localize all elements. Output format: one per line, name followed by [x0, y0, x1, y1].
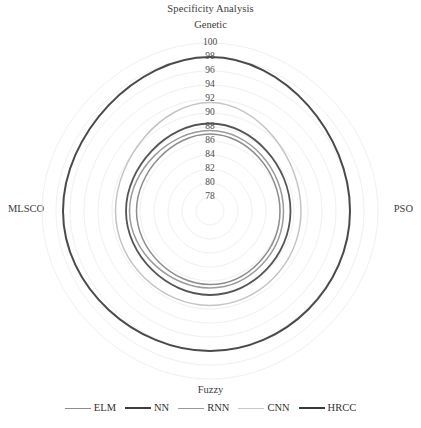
legend-swatch-hrcc — [299, 407, 325, 409]
legend-swatch-elm — [65, 408, 91, 409]
legend-swatch-rnn — [178, 408, 204, 409]
gridline-ring-86 — [140, 141, 280, 281]
gridline-ring-92 — [98, 99, 322, 323]
radial-tick-90: 90 — [193, 107, 227, 117]
legend-item-hrcc[interactable]: HRCC — [299, 403, 357, 414]
radial-tick-98: 98 — [193, 51, 227, 61]
legend-item-rnn[interactable]: RNN — [178, 403, 229, 414]
legend-label: ELM — [94, 403, 116, 414]
radial-tick-86: 86 — [193, 135, 227, 145]
legend-label: NN — [154, 403, 169, 414]
radial-tick-78: 78 — [193, 191, 227, 201]
radial-tick-100: 100 — [193, 37, 227, 47]
legend-item-elm[interactable]: ELM — [65, 403, 116, 414]
legend-item-cnn[interactable]: CNN — [238, 403, 289, 414]
legend-label: CNN — [267, 403, 289, 414]
radial-tick-96: 96 — [193, 65, 227, 75]
radial-tick-88: 88 — [193, 121, 227, 131]
radial-tick-82: 82 — [193, 163, 227, 173]
radial-tick-80: 80 — [193, 177, 227, 187]
radial-tick-92: 92 — [193, 93, 227, 103]
series-line-cnn — [116, 103, 302, 306]
radial-tick-84: 84 — [193, 149, 227, 159]
legend-swatch-cnn — [238, 408, 264, 409]
legend-swatch-nn — [125, 407, 151, 409]
legend-item-nn[interactable]: NN — [125, 403, 169, 414]
radar-chart-figure: Specificity Analysis Genetic PSO Fuzzy M… — [0, 0, 421, 428]
legend-label: HRCC — [328, 403, 357, 414]
radial-tick-94: 94 — [193, 79, 227, 89]
gridline-ring-78 — [196, 197, 224, 225]
legend-label: RNN — [207, 403, 229, 414]
chart-legend: ELMNNRNNCNNHRCC — [0, 403, 421, 414]
